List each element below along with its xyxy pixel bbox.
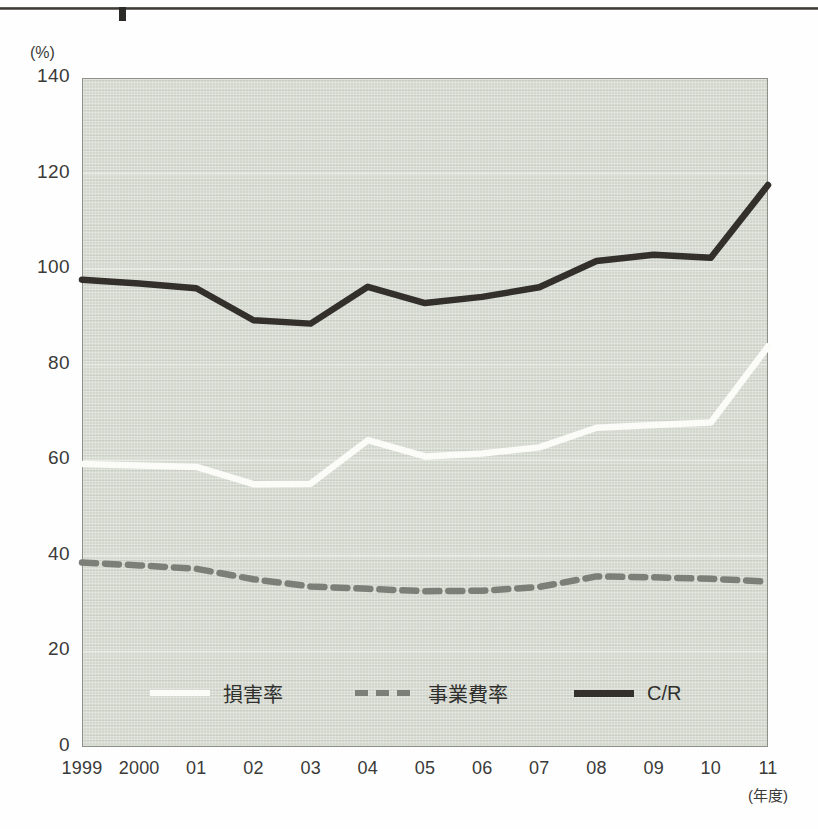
- page-root: (%) 140120100806040200 19992000010203040…: [0, 0, 818, 829]
- legend-label-expense-ratio: 事業費率: [428, 679, 508, 708]
- series-line-loss-ratio: [82, 347, 768, 485]
- legend-label-loss-ratio: 損害率: [223, 679, 283, 708]
- y-tick-label-120: 120: [8, 161, 70, 183]
- legend-item-combined-ratio: C/R: [574, 682, 681, 705]
- series-line-expense-ratio: [82, 563, 768, 592]
- x-axis-unit-label: (年度): [728, 784, 808, 805]
- chart-container: (%) 140120100806040200 19992000010203040…: [0, 0, 818, 829]
- y-tick-label-60: 60: [8, 447, 70, 469]
- legend-item-expense-ratio: 事業費率: [355, 679, 508, 708]
- chart-legend: 損害率 事業費率 C/R: [150, 676, 630, 710]
- series-line-combined-ratio: [82, 185, 768, 324]
- y-tick-label-100: 100: [8, 256, 70, 278]
- y-tick-label-0: 0: [8, 734, 70, 756]
- series-lines-group: [82, 185, 768, 591]
- legend-label-combined-ratio: C/R: [647, 682, 681, 705]
- legend-swatch-combined-ratio: [574, 690, 634, 697]
- y-tick-label-80: 80: [8, 352, 70, 374]
- y-tick-label-40: 40: [8, 543, 70, 565]
- legend-swatch-loss-ratio: [150, 690, 210, 696]
- x-tick-label-11: 11: [733, 758, 803, 779]
- y-tick-label-20: 20: [8, 638, 70, 660]
- y-tick-label-140: 140: [8, 65, 70, 87]
- legend-swatch-expense-ratio: [355, 690, 415, 696]
- legend-item-loss-ratio: 損害率: [150, 679, 283, 708]
